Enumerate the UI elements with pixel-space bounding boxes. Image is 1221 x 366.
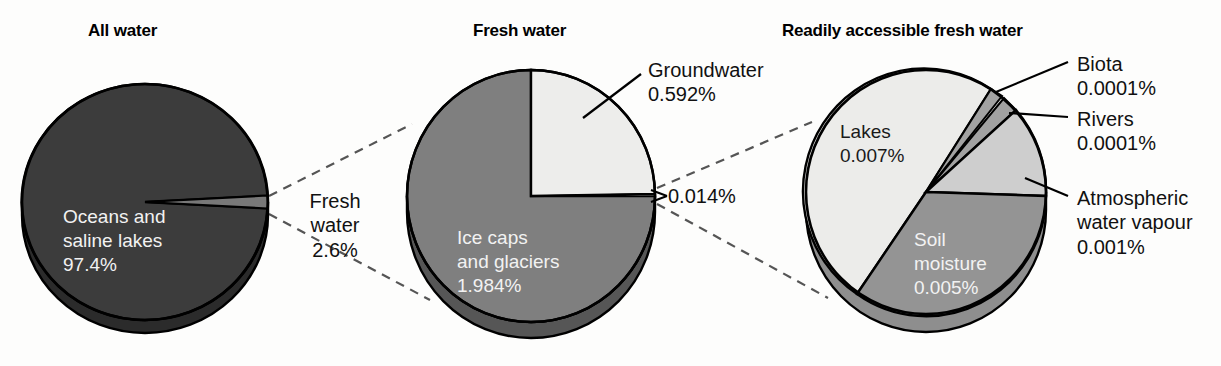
connector-line-upper [269,124,412,196]
chart-title-all-water: All water [88,21,157,41]
figure-canvas: All water Fresh water Readily accessible… [0,0,1221,366]
label-ice-caps-and-glaciers: Ice caps and glaciers 1.984% [457,226,559,298]
label-groundwater: Groundwater 0.592% [648,58,764,107]
label-oceans-and-saline-lakes: Oceans and saline lakes 97.4% [63,205,165,277]
pie-diagram-svg [0,0,1221,366]
leader-biota-line [996,62,1068,92]
chart-title-fresh-water: Fresh water [473,21,566,41]
connector-freshwater-to-accessible [657,122,828,298]
connector-line-lower [657,204,828,298]
label-rivers: Rivers 0.0001% [1077,107,1156,156]
chart-title-readily-accessible: Readily accessible fresh water [782,21,1023,41]
label-accessible-sliver: 0.014% [668,184,736,208]
label-lakes: Lakes 0.007% [840,120,904,168]
label-atmospheric-water-vapour: Atmospheric water vapour 0.001% [1077,186,1193,259]
label-biota: Biota 0.0001% [1077,52,1156,101]
label-soil-moisture: Soil moisture 0.005% [914,228,987,300]
pie-2-slice-groundwater [531,70,655,196]
label-fresh-water-callout: Fresh water 2.6% [283,189,387,262]
connector-line-upper [657,122,812,188]
